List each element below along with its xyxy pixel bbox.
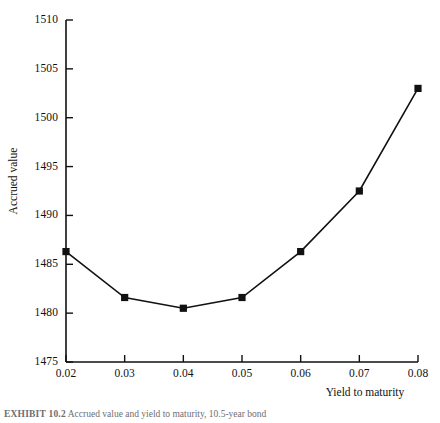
y-axis-ticks (66, 20, 73, 362)
x-axis-tick-labels: 0.020.030.040.050.060.070.08 (0, 368, 440, 384)
data-point-marker (414, 85, 421, 92)
x-axis-tick-label: 0.04 (173, 368, 194, 380)
y-axis-tick-label: 1490 (35, 209, 58, 221)
y-axis-tick-label: 1495 (35, 161, 58, 173)
data-point-marker (62, 248, 69, 255)
data-point-marker (238, 294, 245, 301)
y-axis-tick-label: 1505 (35, 63, 58, 75)
y-axis-tick-label: 1475 (35, 356, 58, 368)
axis-lines (66, 20, 418, 362)
figure-caption: EXHIBIT 10.2 Accrued value and yield to … (4, 408, 436, 420)
x-axis-tick-label: 0.08 (408, 368, 429, 380)
chart-canvas (0, 0, 440, 423)
y-axis-tick-label: 1480 (35, 307, 58, 319)
x-axis-tick-label: 0.05 (232, 368, 253, 380)
caption-label: EXHIBIT 10.2 (4, 409, 66, 419)
x-axis-tick-label: 0.02 (56, 368, 77, 380)
data-point-marker (356, 187, 363, 194)
figure-exhibit-10-2: 14751480148514901495150015051510 0.020.0… (0, 0, 440, 423)
accrued-value-line (66, 88, 418, 308)
y-axis-tick-label: 1485 (35, 258, 58, 270)
y-axis-tick-label: 1510 (35, 14, 58, 26)
y-axis-title: Accrued value (7, 121, 19, 241)
x-axis-tick-label: 0.06 (290, 368, 311, 380)
accrued-value-markers (62, 85, 421, 312)
data-point-marker (180, 305, 187, 312)
caption-text: Accrued value and yield to maturity, 10.… (68, 409, 267, 419)
x-axis-ticks (66, 355, 418, 362)
data-point-marker (121, 294, 128, 301)
y-axis-tick-label: 1500 (35, 112, 58, 124)
x-axis-title: Yield to maturity (300, 386, 430, 398)
x-axis-tick-label: 0.03 (114, 368, 135, 380)
x-axis-tick-label: 0.07 (349, 368, 370, 380)
data-point-marker (297, 248, 304, 255)
